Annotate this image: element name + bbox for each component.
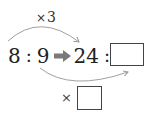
top-multiplier-value: 3 bbox=[47, 9, 56, 25]
left-ratio-second: 9 bbox=[37, 44, 50, 68]
ratio-row: 8 : 9 24 : bbox=[8, 44, 115, 68]
right-arrow-icon bbox=[54, 50, 71, 62]
top-arc bbox=[8, 27, 79, 42]
top-multiplier-label: ×3 bbox=[36, 9, 56, 25]
multiply-icon: × bbox=[36, 11, 46, 25]
multiplier-box[interactable] bbox=[77, 86, 102, 110]
answer-box[interactable] bbox=[110, 43, 144, 66]
bottom-arc bbox=[40, 68, 128, 81]
right-ratio-first: 24 bbox=[74, 44, 99, 68]
bottom-multiply-icon: × bbox=[61, 90, 72, 105]
left-ratio-first: 8 bbox=[8, 44, 21, 68]
left-ratio-colon: : bbox=[26, 45, 32, 66]
